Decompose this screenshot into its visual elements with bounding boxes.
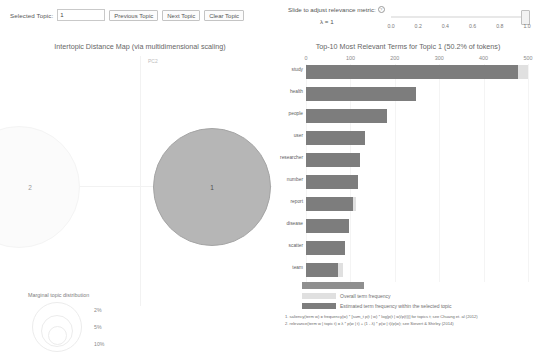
bar-row[interactable]: team [306, 262, 528, 279]
map-y-axis-line [140, 56, 141, 306]
bar-row[interactable]: user [306, 130, 528, 147]
bar-estimated [306, 153, 360, 167]
bar-row[interactable]: researcher [306, 152, 528, 169]
relevance-slider-title-text: Slide to adjust relevance metric: [288, 6, 376, 13]
topic-bubble-1[interactable]: 1 [153, 128, 271, 246]
legend-label-overall: Overall term frequency [340, 293, 391, 299]
marginal-size-10pct: 10% [94, 336, 104, 353]
bar-term-label[interactable]: number [287, 177, 303, 182]
topic-control-bar: Selected Topic: Previous Topic Next Topi… [10, 6, 266, 24]
relevance-slider-panel: Slide to adjust relevance metric:? λ = 1… [288, 2, 532, 34]
bar-estimated [306, 65, 518, 79]
legend-swatch-estimated [302, 303, 336, 309]
legend-row-estimated: Estimated term frequency within the sele… [302, 302, 536, 310]
map-title: Intertopic Distance Map (via multidimens… [0, 42, 280, 51]
bar-estimated [306, 263, 338, 277]
bar-term-label[interactable]: report [290, 199, 303, 204]
footnote-2: 2. relevance(term w | topic t) = λ * p(w… [285, 321, 535, 328]
bar-row[interactable]: people [306, 108, 528, 125]
bar-term-label[interactable]: health [290, 89, 303, 94]
barchart-bars: studyhealthpeopleuserresearchernumberrep… [306, 64, 528, 286]
bar-estimated [306, 175, 358, 189]
topic-bubble-2-label: 2 [28, 184, 32, 191]
marginal-circle-2 [48, 326, 67, 345]
slider-rail [391, 16, 527, 18]
barchart-legend: Overall term frequency Estimated term fr… [302, 292, 536, 312]
bar-estimated [306, 197, 353, 211]
bar-term-label[interactable]: people [289, 111, 303, 116]
x-tick-100: 100 [346, 55, 355, 61]
legend-label-estimated: Estimated term frequency within the sele… [340, 303, 451, 309]
bar-estimated [306, 109, 387, 123]
bar-estimated [306, 241, 345, 255]
slider-tick-0.2: 0.2 [415, 23, 422, 29]
top-terms-barchart: Top-10 Most Relevant Terms for Topic 1 (… [280, 34, 536, 356]
slider-tick-0.8: 0.8 [496, 23, 503, 29]
relevance-slider[interactable] [391, 11, 527, 21]
slider-tick-0.4: 0.4 [442, 23, 449, 29]
bar-term-label[interactable]: researcher [280, 155, 303, 160]
pyldavis-app: Selected Topic: Previous Topic Next Topi… [0, 0, 536, 356]
marginal-topic-distribution: Marginal topic distribution 2%5%10% [28, 292, 148, 354]
legend-row-overall: Overall term frequency [302, 292, 536, 300]
bar-estimated [306, 131, 365, 145]
bar-term-label[interactable]: scatter [289, 243, 303, 248]
slider-tick-1.0: 1.0 [523, 23, 530, 29]
footnotes: 1. saliency(term w) = frequency(w) * [su… [285, 314, 535, 327]
barchart-title: Top-10 Most Relevant Terms for Topic 1 (… [280, 42, 536, 51]
x-tick-200: 200 [390, 55, 399, 61]
bar-row[interactable]: study [306, 64, 528, 81]
previous-topic-button[interactable]: Previous Topic [109, 10, 158, 21]
clear-topic-button[interactable]: Clear Topic [204, 10, 244, 21]
info-icon[interactable]: ? [378, 6, 385, 13]
marginal-size-5pct: 5% [94, 319, 104, 336]
bar-term-label[interactable]: team [292, 265, 303, 270]
bar-row[interactable]: disease [306, 218, 528, 235]
x-tick-300: 300 [435, 55, 444, 61]
topic-bubble-1-label: 1 [210, 184, 214, 191]
bar-row[interactable]: report [306, 196, 528, 213]
lambda-value-label: λ = 1 [320, 18, 334, 25]
relevance-slider-title: Slide to adjust relevance metric:? [288, 6, 385, 13]
bar-term-label[interactable]: user [294, 133, 303, 138]
selected-topic-label: Selected Topic: [10, 12, 53, 19]
selected-topic-input[interactable] [57, 9, 105, 21]
topic-bubble-2[interactable]: 2 [0, 126, 80, 248]
marginal-size-2pct: 2% [94, 302, 104, 319]
slider-tick-0.6: 0.6 [469, 23, 476, 29]
marginal-circles [32, 302, 88, 354]
bar-term-label[interactable]: disease [286, 221, 303, 226]
x-tick-0: 0 [305, 55, 308, 61]
legend-swatch-overall [302, 293, 336, 299]
map-axis-pc2-label: PC2 [148, 58, 158, 64]
bar-row[interactable]: number [306, 174, 528, 191]
next-topic-button[interactable]: Next Topic [162, 10, 200, 21]
slider-tick-labels: 0.00.20.40.60.81.0 [391, 23, 527, 31]
legend-highlight-swatch [302, 282, 364, 289]
bar-term-label[interactable]: study [292, 67, 303, 72]
bar-estimated [306, 87, 416, 101]
gridline-500 [528, 64, 529, 282]
marginal-size-labels: 2%5%10% [94, 302, 104, 353]
intertopic-distance-map: Intertopic Distance Map (via multidimens… [0, 34, 280, 356]
bar-estimated [306, 219, 349, 233]
bar-row[interactable]: health [306, 86, 528, 103]
x-tick-500: 500 [524, 55, 533, 61]
slider-tick-0.0: 0.0 [387, 23, 394, 29]
x-tick-400: 400 [479, 55, 488, 61]
bar-row[interactable]: scatter [306, 240, 528, 257]
marginal-title: Marginal topic distribution [28, 292, 148, 298]
